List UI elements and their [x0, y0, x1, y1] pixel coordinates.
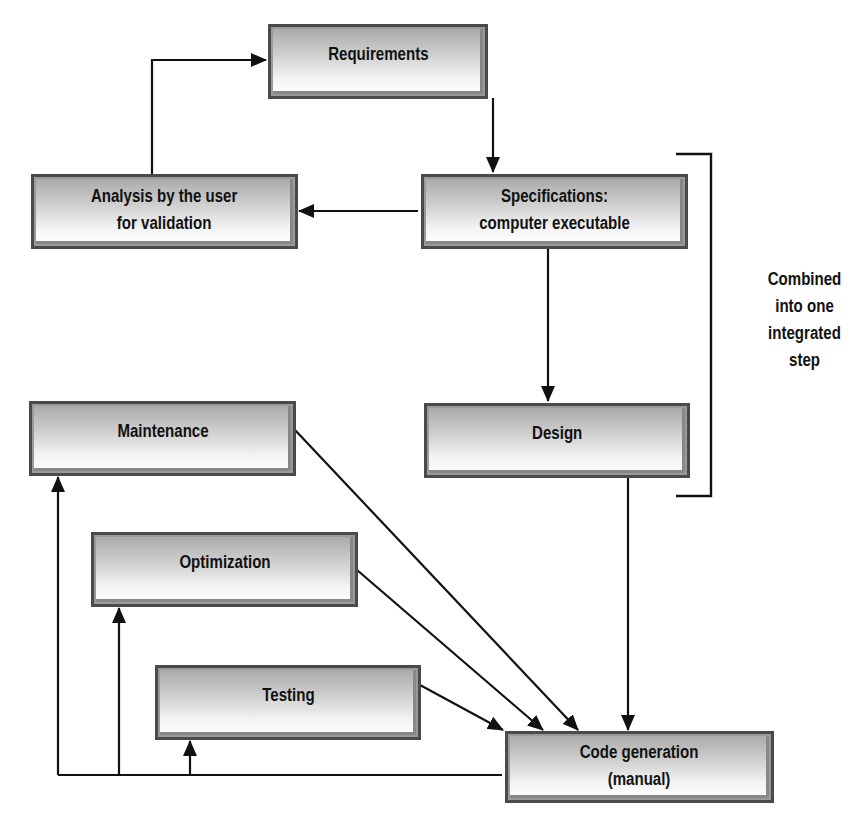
- node-optimization: Optimization: [91, 532, 358, 607]
- flowchart-diagram: Requirements Analysis by the user for va…: [0, 0, 867, 814]
- node-label: Maintenance: [117, 418, 208, 445]
- node-maintenance: Maintenance: [29, 401, 296, 476]
- node-label: Analysis by the user for validation: [91, 183, 237, 237]
- node-code-generation: Code generation (manual): [505, 731, 774, 803]
- edge-analysis-to-requirements: [152, 60, 266, 174]
- node-label: Design: [532, 420, 582, 447]
- node-analysis: Analysis by the user for validation: [31, 174, 298, 249]
- node-label: Requirements: [328, 41, 428, 68]
- node-label: Specifications: computer executable: [479, 183, 630, 237]
- node-requirements: Requirements: [268, 24, 488, 99]
- node-testing: Testing: [155, 665, 421, 740]
- node-label: Optimization: [179, 549, 270, 576]
- bracket-note: Combined into one integrated step: [751, 266, 859, 374]
- node-label: Testing: [262, 682, 314, 709]
- edge-testing-to-code: [420, 685, 503, 730]
- node-design: Design: [424, 403, 690, 478]
- node-specifications: Specifications: computer executable: [421, 174, 688, 249]
- node-label: Code generation (manual): [580, 739, 699, 793]
